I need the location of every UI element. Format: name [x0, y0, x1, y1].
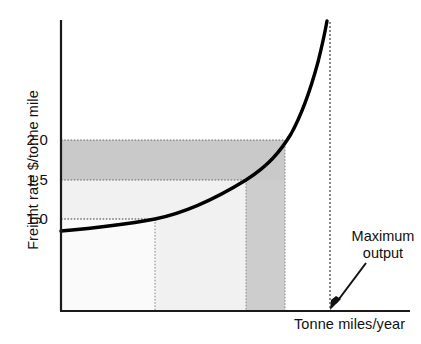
region-high-rate: [61, 140, 285, 180]
y-axis-label: Freight rate $/tonne mile: [25, 70, 41, 270]
region-high-rate-column: [246, 180, 285, 311]
region-lowest-rate: [61, 219, 155, 311]
maximum-output-annotation: Maximum output: [345, 228, 421, 262]
freight-rate-chart: 2.0 1.5 1.0 Freight rate $/tonne mile To…: [0, 0, 421, 344]
x-axis-label: Tonne miles/year: [294, 316, 405, 332]
maximum-output-arrow-shaft: [336, 263, 366, 303]
maximum-output-line-2: output: [345, 245, 421, 262]
chart-canvas: [0, 0, 421, 344]
maximum-output-arrow-head: [330, 296, 341, 310]
maximum-output-line-1: Maximum: [345, 228, 421, 245]
